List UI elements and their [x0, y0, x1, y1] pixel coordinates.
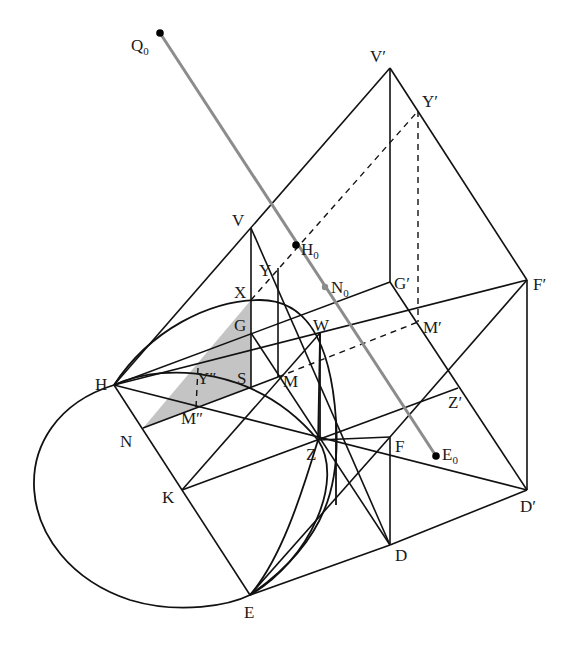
point-marker-N0 — [322, 284, 328, 290]
label-K: K — [162, 488, 175, 507]
edge-D-D1 — [390, 490, 527, 545]
label-V: V — [232, 211, 245, 230]
point-marker-Q0 — [156, 29, 164, 37]
label-F: F — [395, 437, 404, 456]
label-Y: Y — [259, 261, 271, 280]
label-Z: Z — [306, 445, 316, 464]
edge-E-D — [250, 545, 390, 595]
label-Q0: Q0 — [131, 36, 149, 57]
label-H0: H0 — [301, 240, 319, 261]
edge-V1-F1 — [390, 68, 527, 280]
label-E: E — [244, 603, 254, 622]
label-M2: M″ — [181, 409, 203, 428]
label-F1: F′ — [533, 275, 546, 294]
label-G1: G′ — [394, 274, 410, 293]
label-W: W — [313, 316, 330, 335]
geometry-diagram: Q0V′Y′VH0YN0G′F′XGWM′Y″SMHM″NZ′ZFE0KD′DE — [0, 0, 580, 651]
label-N: N — [120, 432, 132, 451]
label-N0: N0 — [331, 278, 349, 299]
middle-arc-H-S-Z-E — [114, 373, 327, 595]
label-D: D — [395, 546, 407, 565]
edge-G1-D1 — [390, 282, 527, 490]
label-Y1: Y′ — [422, 92, 438, 111]
point-marker-H0 — [292, 241, 300, 249]
label-Z1: Z′ — [448, 393, 462, 412]
label-X: X — [234, 283, 246, 302]
label-D1: D′ — [520, 497, 536, 516]
dashed-edge-X-Y1 — [251, 111, 418, 300]
label-M1: M′ — [423, 318, 442, 337]
label-G: G — [234, 316, 246, 335]
label-Y2: Y″ — [197, 369, 216, 388]
label-S: S — [237, 369, 246, 388]
edge-Z-F — [318, 437, 390, 440]
label-M: M — [283, 372, 298, 391]
label-E0: E0 — [442, 445, 458, 466]
edge-E-F — [250, 437, 390, 595]
dashed-edge-M-M1 — [278, 322, 418, 377]
outer-ellipse-arc — [34, 385, 250, 608]
edge-V-D — [251, 228, 390, 545]
label-H: H — [95, 375, 107, 394]
label-V1: V′ — [370, 47, 386, 66]
point-marker-E0 — [432, 452, 440, 460]
edge-F-F1 — [390, 280, 527, 437]
curves — [34, 300, 337, 608]
edge-H-V1 — [114, 68, 390, 385]
